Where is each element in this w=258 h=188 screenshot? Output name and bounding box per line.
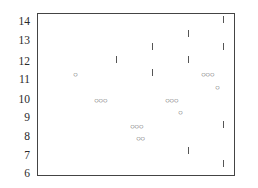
tick-marker bbox=[188, 147, 189, 154]
tick-marker bbox=[223, 16, 224, 23]
y-axis-label: 6 bbox=[10, 167, 30, 179]
y-axis-label: 10 bbox=[10, 93, 30, 105]
tick-marker bbox=[188, 30, 189, 37]
circle-marker: ○ bbox=[178, 109, 182, 117]
y-axis-label: 8 bbox=[10, 130, 30, 142]
tick-marker bbox=[223, 160, 224, 167]
tick-marker bbox=[116, 56, 117, 63]
circle-marker: ○ bbox=[215, 84, 219, 92]
circle-marker: ○○ bbox=[136, 135, 145, 143]
circle-marker: ○ bbox=[73, 71, 77, 79]
circle-marker: ○○○ bbox=[165, 97, 178, 105]
tick-marker bbox=[152, 69, 153, 76]
circle-marker: ○○○ bbox=[94, 97, 107, 105]
y-axis-label: 13 bbox=[10, 34, 30, 46]
circle-marker: ○○○ bbox=[201, 71, 214, 79]
y-axis-label: 14 bbox=[10, 15, 30, 27]
y-axis-label: 12 bbox=[10, 55, 30, 67]
tick-marker bbox=[223, 121, 224, 128]
tick-marker bbox=[188, 56, 189, 63]
circle-marker: ○○○ bbox=[130, 123, 143, 131]
y-axis-label: 9 bbox=[10, 111, 30, 123]
tick-marker bbox=[223, 43, 224, 50]
plot-frame bbox=[37, 13, 235, 176]
y-axis-label: 11 bbox=[10, 73, 30, 85]
tick-marker bbox=[152, 43, 153, 50]
y-axis-label: 7 bbox=[10, 149, 30, 161]
